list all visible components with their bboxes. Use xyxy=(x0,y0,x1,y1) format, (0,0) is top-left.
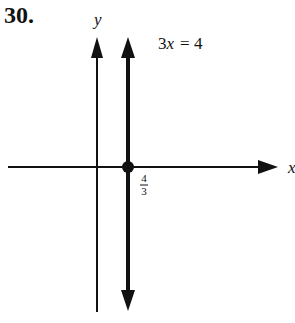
y-axis xyxy=(91,37,103,312)
intercept-fraction-label: 4 3 xyxy=(140,172,148,197)
fraction-denominator: 3 xyxy=(141,185,147,197)
graph: x y 3x= 4 4 3 xyxy=(0,0,295,323)
fraction-numerator: 4 xyxy=(141,172,147,184)
line-3x-equals-4 xyxy=(121,37,135,311)
line-top-arrow-icon xyxy=(121,37,135,58)
equation-label: 3x= 4 xyxy=(158,34,203,53)
line-bottom-arrow-icon xyxy=(121,290,135,311)
y-axis-arrow-icon xyxy=(91,37,103,58)
x-intercept-point xyxy=(122,161,134,173)
x-axis-arrow-icon xyxy=(258,160,278,174)
x-axis-label: x xyxy=(287,158,295,177)
y-axis-label: y xyxy=(92,10,102,29)
